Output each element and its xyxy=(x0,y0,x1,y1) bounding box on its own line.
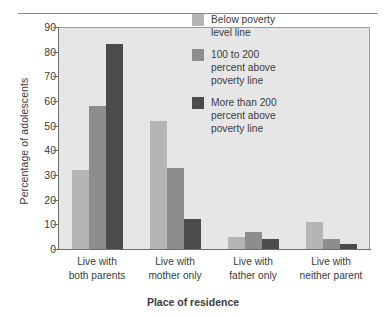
legend-label: Below povertylevel line xyxy=(211,13,275,39)
bar-chart-figure: Percentage of adolescents 01020304050607… xyxy=(0,0,386,317)
legend-label-line-2: level line xyxy=(211,26,275,39)
x-tick-line-1: Live with xyxy=(285,255,377,269)
bar xyxy=(306,222,323,249)
bar xyxy=(323,239,340,249)
y-tick-label: 60 xyxy=(0,95,56,107)
legend-label-line-2: percent above xyxy=(211,61,276,74)
legend-label-line-1: More than 200 xyxy=(211,96,277,109)
y-tick-label: 80 xyxy=(0,46,56,58)
y-tick-label: 40 xyxy=(0,144,56,156)
legend-item: More than 200percent abovepoverty line xyxy=(192,96,310,135)
legend-label-line-2: percent above xyxy=(211,109,277,122)
y-tick-label: 50 xyxy=(0,120,56,132)
legend-swatch-icon xyxy=(192,49,204,61)
bar xyxy=(340,244,357,249)
y-tick-label: 10 xyxy=(0,218,56,230)
legend-label-line-3: poverty line xyxy=(211,74,276,87)
legend-label: More than 200percent abovepoverty line xyxy=(211,96,277,135)
x-tick-line-2: neither parent xyxy=(285,269,377,283)
bar xyxy=(228,237,245,249)
bar xyxy=(245,232,262,249)
legend-item: 100 to 200percent abovepoverty line xyxy=(192,48,310,87)
bar xyxy=(167,168,184,249)
y-tick-label: 30 xyxy=(0,169,56,181)
bar xyxy=(150,121,167,249)
legend-item: Below povertylevel line xyxy=(192,13,310,39)
bar xyxy=(89,106,106,249)
legend-label: 100 to 200percent abovepoverty line xyxy=(211,48,276,87)
bar xyxy=(262,239,279,249)
legend-label-line-1: 100 to 200 xyxy=(211,48,276,61)
legend-swatch-icon xyxy=(192,97,204,109)
chart-legend: Below povertylevel line100 to 200percent… xyxy=(192,13,310,144)
x-axis-line xyxy=(58,249,371,250)
x-axis-title: Place of residence xyxy=(0,296,386,308)
y-tick-mark xyxy=(53,249,58,250)
bar xyxy=(72,170,89,249)
legend-label-line-1: Below poverty xyxy=(211,13,275,26)
y-tick-label: 70 xyxy=(0,70,56,82)
legend-swatch-icon xyxy=(192,14,204,26)
x-tick-label: Live withneither parent xyxy=(285,255,377,282)
bar-group xyxy=(58,27,136,249)
bar xyxy=(106,44,123,249)
y-tick-label: 20 xyxy=(0,194,56,206)
y-tick-label: 0 xyxy=(0,243,56,255)
y-tick-label: 90 xyxy=(0,21,56,33)
legend-label-line-3: poverty line xyxy=(211,122,277,135)
bar xyxy=(184,219,201,249)
